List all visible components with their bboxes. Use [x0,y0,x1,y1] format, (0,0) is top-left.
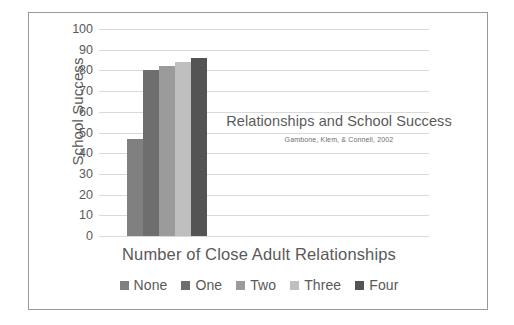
legend-item-label: Three [304,277,341,293]
legend-item-label: One [195,277,222,293]
gridline [99,236,429,237]
y-axis-tick-label: 10 [79,208,93,222]
legend-swatch-icon [290,281,299,290]
legend-item-label: None [134,277,168,293]
y-axis-tick-label: 80 [79,63,93,77]
y-axis-tick-label: 40 [79,146,93,160]
legend-item-label: Two [250,277,276,293]
legend-swatch-icon [181,281,190,290]
y-axis-tick-label: 0 [86,229,93,243]
legend-item-two[interactable]: Two [236,277,276,293]
plot-area: 1009080706050403020100 [99,29,429,236]
bar-one[interactable] [143,70,159,236]
y-axis-tick-label: 70 [79,84,93,98]
slide-frame: School Success 1009080706050403020100 Nu… [28,12,488,310]
y-axis-tick-label: 60 [79,105,93,119]
bar-series[interactable] [127,29,207,236]
y-axis-tick-label: 50 [79,126,93,140]
legend-item-label: Four [369,277,398,293]
legend-swatch-icon [120,281,129,290]
legend-item-four[interactable]: Four [355,277,398,293]
legend-item-one[interactable]: One [181,277,222,293]
legend-swatch-icon [236,281,245,290]
y-axis-tick-label: 30 [79,167,93,181]
bar-three[interactable] [175,62,191,236]
y-axis-tick-label: 90 [79,43,93,57]
bar-none[interactable] [127,139,143,236]
bar-two[interactable] [159,66,175,236]
y-axis-tick-label: 20 [79,188,93,202]
legend-item-three[interactable]: Three [290,277,341,293]
x-axis-title: Number of Close Adult Relationships [29,245,489,264]
bar-four[interactable] [191,58,207,236]
y-axis-tick-label: 100 [72,22,93,36]
legend-item-none[interactable]: None [120,277,168,293]
legend-swatch-icon [355,281,364,290]
chart-legend[interactable]: NoneOneTwoThreeFour [29,277,489,293]
bar-chart[interactable]: School Success 1009080706050403020100 Nu… [29,13,489,311]
